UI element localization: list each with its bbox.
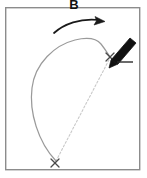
diagram-canvas [0,0,147,178]
figure-panel: B [0,0,147,178]
panel-border [6,8,140,170]
panel-label: B [62,0,86,12]
